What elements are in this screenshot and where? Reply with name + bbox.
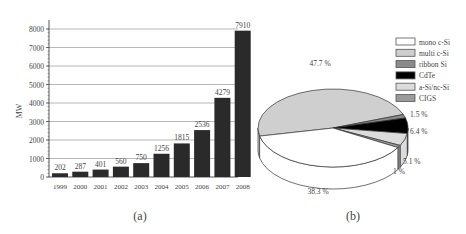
bar-2004 (154, 154, 170, 177)
legend-label: CdTe (419, 71, 436, 80)
legend-swatch (396, 38, 415, 45)
pie-value-label: 1.5 % (410, 110, 428, 119)
legend-swatch (396, 49, 415, 56)
x-tick-label: 2007 (215, 183, 230, 191)
bar-2000 (72, 172, 88, 177)
legend-item: a-Si/nc-Si (396, 83, 449, 92)
legend-item: mono c-Si (396, 38, 450, 47)
bar-2001 (93, 170, 109, 177)
x-tick-label: 2005 (175, 183, 190, 191)
x-tick-label: 2008 (236, 183, 251, 191)
y-tick-label: 5000 (29, 81, 44, 90)
x-tick-label: 2003 (134, 183, 149, 191)
legend-item: ribbon Si (396, 60, 447, 69)
x-tick-label: 2004 (155, 183, 170, 191)
pie-value-label: 47.7 % (309, 59, 330, 68)
x-tick-label: 2001 (94, 183, 109, 191)
bar-value-label: 750 (136, 153, 148, 162)
legend-swatch (396, 83, 415, 90)
bar-2002 (113, 167, 129, 177)
y-tick-label: 3000 (29, 118, 44, 127)
bar-value-label: 1815 (174, 133, 189, 142)
legend-swatch (396, 61, 415, 68)
pie-value-label: 1 % (393, 167, 405, 176)
bar-value-label: 401 (95, 160, 107, 169)
bar-2003 (133, 163, 149, 177)
y-tick-label: 1000 (29, 155, 44, 164)
pie-chart: 38.3 %47.7 %1.5 %6.4 %5.1 %1 % (258, 59, 428, 196)
pie-legend: mono c-Simulti c-Siribbon SiCdTea-Si/nc-… (396, 38, 450, 104)
bar-1999 (52, 173, 68, 177)
bar-2005 (174, 143, 190, 177)
legend-label: ribbon Si (419, 60, 447, 69)
y-tick-label: 8000 (29, 25, 44, 34)
bar-2008 (235, 31, 251, 177)
y-tick-label: 4000 (29, 99, 44, 108)
bar-value-label: 4279 (215, 88, 230, 97)
y-axis-label: MW (15, 103, 24, 118)
bar-value-label: 287 (75, 162, 87, 171)
pie-value-label: 6.4 % (410, 127, 428, 136)
bar-value-label: 7910 (235, 21, 250, 30)
bar-value-label: 2536 (195, 120, 210, 129)
bar-value-label: 1256 (154, 144, 169, 153)
y-tick-label: 6000 (29, 62, 44, 71)
legend-swatch (396, 95, 415, 102)
bar-chart: 010002000300040005000600070008000MW20219… (15, 20, 251, 191)
legend-swatch (396, 72, 415, 79)
legend-item: CIGS (396, 94, 436, 103)
y-tick-label: 0 (40, 173, 44, 182)
y-tick-label: 2000 (29, 136, 44, 145)
y-tick-label: 7000 (29, 44, 44, 53)
x-tick-label: 2006 (195, 183, 210, 191)
bar-value-label: 560 (115, 157, 127, 166)
x-tick-label: 2000 (73, 183, 88, 191)
panel-label-b: (b) (346, 209, 360, 223)
bar-2006 (194, 130, 210, 177)
legend-label: a-Si/nc-Si (419, 83, 449, 92)
x-tick-label: 1999 (53, 183, 68, 191)
x-tick-label: 2002 (114, 183, 129, 191)
legend-label: mono c-Si (419, 38, 450, 47)
bar-2007 (214, 98, 230, 177)
bar-value-label: 202 (54, 163, 66, 172)
figure: 010002000300040005000600070008000MW20219… (0, 0, 466, 234)
pie-value-label: 38.3 % (307, 187, 328, 196)
legend-item: CdTe (396, 71, 436, 80)
legend-label: multi c-Si (419, 49, 449, 58)
legend-label: CIGS (419, 94, 436, 103)
pie-value-label: 5.1 % (403, 157, 421, 166)
legend-item: multi c-Si (396, 49, 449, 58)
panel-label-a: (a) (133, 209, 146, 223)
